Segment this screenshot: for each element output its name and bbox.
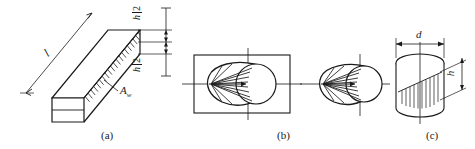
web-area-symbol: A: [120, 84, 127, 96]
caption-a: (a): [101, 129, 113, 141]
half-height-top-label: h2: [126, 6, 142, 20]
height-label-h: h: [445, 71, 456, 77]
half-height-bottom-numerator: h: [132, 67, 142, 72]
half-height-top-denominator: 2: [132, 6, 142, 11]
half-height-bottom-label: h2: [126, 58, 142, 72]
figure-linework: [0, 0, 475, 149]
half-height-top-numerator: h: [132, 15, 142, 20]
half-height-bottom-denominator: 2: [132, 58, 142, 63]
panel-b-free-section: [300, 54, 390, 116]
fraction-bar-2: [132, 65, 142, 66]
web-area-subscript: w: [127, 91, 132, 99]
panel-a-beam: [20, 8, 172, 122]
web-area-label: Aw: [120, 85, 131, 99]
caption-b: (b): [277, 129, 290, 141]
diameter-label-d: d: [416, 29, 422, 40]
panel-c-cylinder: [396, 38, 466, 124]
engineering-figure: l h2 h2 Aw d h (a) (b) (c): [0, 0, 475, 149]
caption-c: (c): [426, 129, 438, 141]
fraction-bar: [132, 13, 142, 14]
panel-b-rect-section: [182, 48, 302, 120]
